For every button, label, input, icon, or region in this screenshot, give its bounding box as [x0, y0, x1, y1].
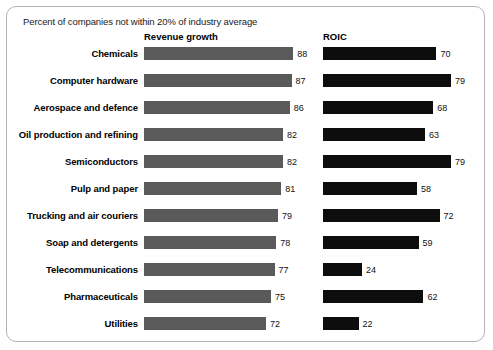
- bar-value-label: 72: [270, 318, 280, 330]
- bar-value-label: 72: [444, 210, 454, 222]
- bar-value-label: 24: [366, 264, 376, 276]
- bar-value-label: 82: [287, 129, 297, 141]
- bar-value-label: 88: [297, 48, 307, 60]
- bar-roic: [323, 263, 362, 276]
- bar-revenue-growth: [144, 47, 293, 60]
- row-category-label: Pulp and paper: [7, 182, 138, 196]
- bar-roic: [323, 236, 419, 249]
- chart-row: Pulp and paper8158: [7, 182, 484, 209]
- row-category-label: Trucking and air couriers: [7, 209, 138, 223]
- chart-row: Telecommunications7724: [7, 263, 484, 290]
- bar-roic: [323, 128, 425, 141]
- bar-roic: [323, 209, 440, 222]
- bar-revenue-growth: [144, 317, 266, 330]
- bar-value-label: 63: [429, 129, 439, 141]
- chart-row: Oil production and refining8263: [7, 128, 484, 155]
- bar-revenue-growth: [144, 263, 275, 276]
- column-header-revenue-growth: Revenue growth: [144, 31, 218, 42]
- bar-value-label: 22: [363, 318, 373, 330]
- bar-value-label: 86: [294, 102, 304, 114]
- bar-value-label: 79: [455, 75, 465, 87]
- column-header-roic: ROIC: [323, 31, 347, 42]
- bar-roic: [323, 155, 451, 168]
- bar-roic: [323, 182, 417, 195]
- bar-roic: [323, 47, 436, 60]
- bar-roic: [323, 74, 451, 87]
- bar-revenue-growth: [144, 236, 276, 249]
- bar-roic: [323, 101, 433, 114]
- row-category-label: Utilities: [7, 317, 138, 331]
- bar-value-label: 58: [421, 183, 431, 195]
- bar-revenue-growth: [144, 155, 283, 168]
- bar-value-label: 75: [275, 291, 285, 303]
- bar-value-label: 59: [423, 237, 433, 249]
- chart-row: Semiconductors8279: [7, 155, 484, 182]
- bar-revenue-growth: [144, 128, 283, 141]
- chart-row: Computer hardware8779: [7, 74, 484, 101]
- bar-revenue-growth: [144, 74, 292, 87]
- bar-roic: [323, 317, 359, 330]
- bar-value-label: 77: [279, 264, 289, 276]
- bar-value-label: 79: [282, 210, 292, 222]
- chart-row: Aerospace and defence8668: [7, 101, 484, 128]
- chart-row: Soap and detergents7859: [7, 236, 484, 263]
- exhibit-frame: Percent of companies not within 20% of i…: [6, 6, 485, 342]
- chart-row: Chemicals8870: [7, 47, 484, 74]
- bar-value-label: 68: [437, 102, 447, 114]
- row-category-label: Oil production and refining: [7, 128, 138, 142]
- bar-revenue-growth: [144, 290, 271, 303]
- row-category-label: Telecommunications: [7, 263, 138, 277]
- row-category-label: Aerospace and defence: [7, 101, 138, 115]
- row-category-label: Semiconductors: [7, 155, 138, 169]
- chart-subtitle: Percent of companies not within 20% of i…: [23, 16, 257, 27]
- bar-value-label: 82: [287, 156, 297, 168]
- bar-value-label: 62: [427, 291, 437, 303]
- row-category-label: Pharmaceuticals: [7, 290, 138, 304]
- bar-value-label: 79: [455, 156, 465, 168]
- row-category-label: Chemicals: [7, 47, 138, 61]
- bar-value-label: 81: [285, 183, 295, 195]
- chart-row: Utilities7222: [7, 317, 484, 344]
- bar-roic: [323, 290, 423, 303]
- chart-row: Trucking and air couriers7972: [7, 209, 484, 236]
- bar-value-label: 87: [296, 75, 306, 87]
- row-category-label: Computer hardware: [7, 74, 138, 88]
- bar-revenue-growth: [144, 209, 278, 222]
- row-category-label: Soap and detergents: [7, 236, 138, 250]
- chart-row: Pharmaceuticals7562: [7, 290, 484, 317]
- bar-revenue-growth: [144, 182, 281, 195]
- bar-value-label: 70: [440, 48, 450, 60]
- chart-rows: Chemicals8870Computer hardware8779Aerosp…: [7, 47, 484, 344]
- bar-value-label: 78: [280, 237, 290, 249]
- bar-revenue-growth: [144, 101, 290, 114]
